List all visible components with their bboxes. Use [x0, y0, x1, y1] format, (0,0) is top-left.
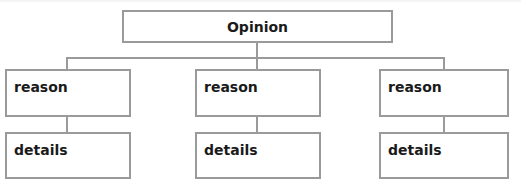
reason-box-1: reason	[5, 69, 131, 117]
reason-label-3: reason	[388, 79, 442, 95]
details-label-2: details	[204, 142, 258, 158]
reason-details-connector-2	[256, 117, 258, 132]
opinion-diagram: Opinion reason details reason details re…	[0, 0, 521, 190]
details-box-2: details	[195, 132, 321, 179]
details-box-3: details	[379, 132, 509, 179]
reason-box-2: reason	[195, 69, 321, 117]
opinion-box: Opinion	[122, 10, 393, 43]
cropped-top-edge	[0, 0, 521, 3]
details-label-1: details	[14, 142, 68, 158]
reason-box-3: reason	[379, 69, 509, 117]
opinion-label: Opinion	[124, 19, 391, 35]
reason-label-2: reason	[204, 79, 258, 95]
details-label-3: details	[388, 142, 442, 158]
reason-details-connector-3	[443, 117, 445, 132]
reason-details-connector-1	[66, 117, 68, 132]
reason-label-1: reason	[14, 79, 68, 95]
details-box-1: details	[5, 132, 131, 179]
